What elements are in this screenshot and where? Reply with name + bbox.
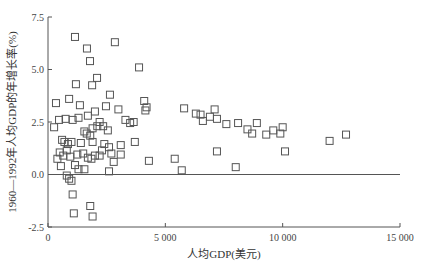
x-ticks: 05 00010 00015 000 <box>46 223 414 243</box>
y-tick-label: 2.5 <box>32 117 45 128</box>
y-tick-label: 0.0 <box>32 169 45 180</box>
data-point-square <box>110 158 117 165</box>
data-point-square <box>171 155 178 162</box>
data-point-square <box>111 39 118 46</box>
data-point-square <box>326 137 333 144</box>
data-point-square <box>263 131 270 138</box>
data-point-square <box>223 121 230 128</box>
y-axis-title: 1960—1992年人均GDP的年增长率(%) <box>5 31 19 213</box>
data-point-square <box>232 164 239 171</box>
data-point-square <box>106 168 113 175</box>
data-point-square <box>136 64 143 71</box>
data-point-square <box>235 120 242 127</box>
data-point-square <box>52 100 59 107</box>
data-point-square <box>102 103 109 110</box>
data-point-square <box>62 115 69 122</box>
data-point-square <box>270 127 277 134</box>
data-point-square <box>106 91 113 98</box>
data-point-square <box>253 120 260 127</box>
data-point-square <box>145 157 152 164</box>
data-point-square <box>282 148 289 155</box>
data-point-square <box>70 210 77 217</box>
data-point-square <box>244 126 251 133</box>
data-point-square <box>249 130 256 137</box>
data-point-square <box>206 113 213 120</box>
data-point-square <box>343 131 350 138</box>
scatter-chart: -2.50.02.55.07.5 05 00010 00015 000 人均GD… <box>0 0 428 270</box>
x-tick-label: 10 000 <box>269 232 297 243</box>
data-point-square <box>213 148 220 155</box>
data-point-square <box>96 152 103 159</box>
data-points <box>51 33 350 220</box>
data-point-square <box>213 115 220 122</box>
data-point-square <box>71 33 78 40</box>
data-point-square <box>211 106 218 113</box>
y-tick-label: 5.0 <box>32 64 45 75</box>
data-point-square <box>84 112 91 119</box>
data-point-square <box>87 203 94 210</box>
data-point-square <box>87 58 94 65</box>
data-point-square <box>56 116 63 123</box>
x-tick-label: 0 <box>46 232 51 243</box>
data-point-square <box>104 127 111 134</box>
x-axis-title: 人均GDP(美元) <box>187 248 261 261</box>
data-point-square <box>83 45 90 52</box>
data-point-square <box>57 163 64 170</box>
data-point-square <box>68 177 75 184</box>
data-point-square <box>76 102 83 109</box>
data-point-square <box>89 213 96 220</box>
data-point-square <box>117 142 124 149</box>
data-point-square <box>115 106 122 113</box>
data-point-square <box>178 167 185 174</box>
y-tick-label: 7.5 <box>32 12 45 23</box>
data-point-square <box>72 81 79 88</box>
data-point-square <box>77 140 84 147</box>
x-tick-label: 5 000 <box>154 232 177 243</box>
x-tick-label: 15 000 <box>386 232 414 243</box>
data-point-square <box>89 82 96 89</box>
data-point-square <box>91 108 98 115</box>
data-point-square <box>117 151 124 158</box>
axes <box>48 17 400 227</box>
data-point-square <box>69 191 76 198</box>
y-tick-label: -2.5 <box>28 222 44 233</box>
data-point-square <box>51 124 58 131</box>
data-point-square <box>181 105 188 112</box>
data-point-square <box>66 95 73 102</box>
data-point-square <box>94 74 101 81</box>
data-point-square <box>131 138 138 145</box>
